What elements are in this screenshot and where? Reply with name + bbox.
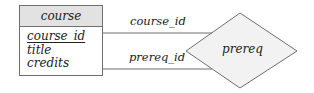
edge-label-prereq-id: prereq_id: [129, 50, 185, 64]
attribute-course-id-primary-key: course_id: [27, 30, 102, 44]
relationship-name: prereq: [222, 42, 263, 56]
attribute-credits: credits: [27, 57, 102, 71]
entity-course: course course_id title credits: [19, 5, 103, 76]
er-diagram-canvas: course course_id title credits course_id…: [0, 0, 314, 93]
entity-name: course: [20, 6, 102, 27]
entity-attributes: course_id title credits: [20, 27, 102, 71]
attribute-title: title: [27, 44, 102, 58]
edge-label-course-id: course_id: [130, 14, 186, 28]
